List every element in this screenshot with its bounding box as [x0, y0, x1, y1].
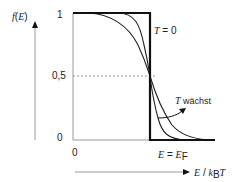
x-axis-label: E / kBT: [193, 167, 227, 180]
fermi-dirac-chart: f(E) 1 0,5 0 0 T = 0 T wächst E = EF E /…: [0, 0, 240, 182]
y-tick-0: 0: [57, 132, 63, 143]
curve-zero-temperature: [73, 13, 215, 140]
curve-high-temperature: [73, 13, 215, 140]
label-t-grows: T wächst: [175, 95, 212, 106]
y-tick-1: 1: [57, 9, 63, 20]
label-t-zero: T = 0: [154, 25, 177, 36]
y-tick-0-5: 0,5: [52, 70, 66, 81]
curve-low-temperature: [73, 13, 200, 140]
label-fermi-energy: E = EF: [157, 149, 188, 162]
x-tick-0: 0: [72, 147, 78, 158]
y-axis-arrow: [32, 21, 38, 140]
t-grows-arrow: [158, 108, 186, 118]
x-axis-arrow: [75, 169, 190, 175]
y-axis-label: f(E): [12, 11, 28, 22]
